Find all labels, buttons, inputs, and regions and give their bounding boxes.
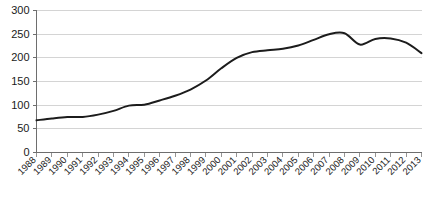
x-axis-labels-group: 1988198919901991199219931994199519961997… [15,154,423,177]
y-axis-tick-label: 50 [17,122,29,134]
line-chart: 050100150200250300 198819891990199119921… [0,0,437,211]
y-axis-labels-group: 050100150200250300 [11,4,29,158]
chart-canvas: 050100150200250300 198819891990199119921… [0,0,437,211]
data-series-line [37,32,422,120]
y-axis-tick-label: 300 [11,4,29,16]
y-axis-tick-label: 150 [11,75,29,87]
y-axis-tick-label: 250 [11,28,29,40]
y-axis-tick-label: 100 [11,99,29,111]
x-axis-tick-label: 2013 [400,154,423,177]
gridlines-group [37,11,422,129]
y-axis-tick-label: 200 [11,51,29,63]
